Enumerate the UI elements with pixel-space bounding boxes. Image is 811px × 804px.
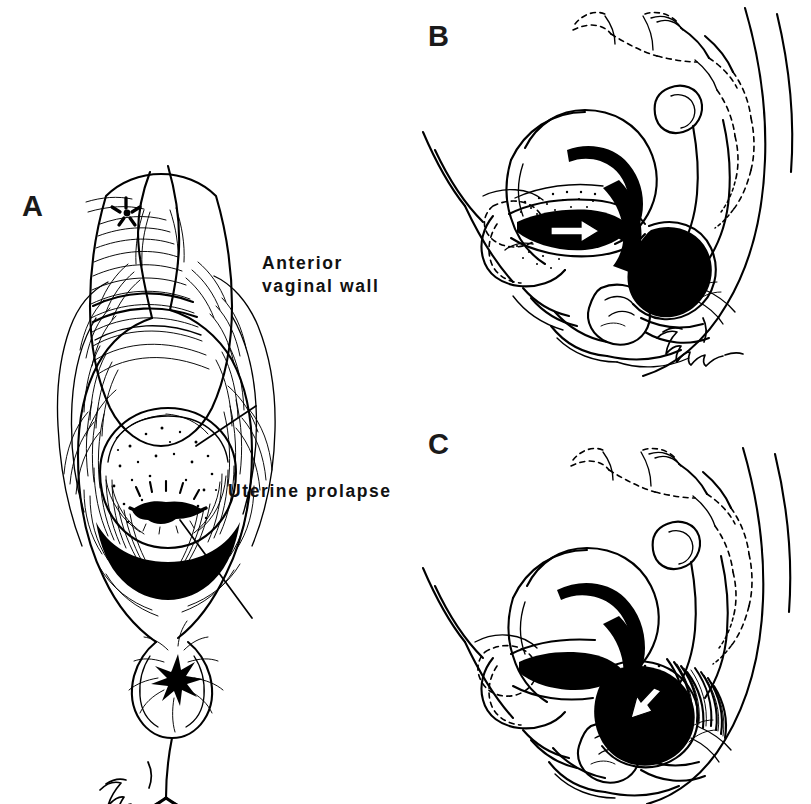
panel-b-sagittal-section — [405, 0, 811, 400]
sacral-loop — [653, 522, 700, 569]
panel-letter-c: C — [428, 430, 449, 459]
label-uterine-prolapse: Uterine prolapse — [228, 480, 392, 503]
figure-root: A B C Anterior vaginal wall Uterine prol… — [0, 0, 811, 804]
thigh-folds — [96, 738, 240, 804]
panel-b-artwork — [405, 0, 811, 400]
panel-c-sagittal-section — [405, 400, 811, 804]
apex-marking — [112, 198, 140, 225]
vaginal-rugae-rings — [86, 197, 209, 374]
panel-a-artwork — [0, 150, 430, 770]
panel-letter-a: A — [22, 192, 43, 221]
prolapsed-cervix — [100, 408, 236, 548]
sacrum-vertebrae — [571, 448, 752, 664]
label-anterior-vaginal-wall: Anterior vaginal wall — [262, 252, 379, 298]
sacrum-vertebrae — [573, 12, 754, 228]
anus — [129, 621, 223, 732]
sacral-loop — [655, 86, 702, 133]
panel-letter-b: B — [428, 22, 449, 51]
panel-a-perineal-view — [0, 150, 430, 770]
gluteal-folds — [551, 312, 689, 367]
panel-c-artwork — [405, 400, 811, 804]
